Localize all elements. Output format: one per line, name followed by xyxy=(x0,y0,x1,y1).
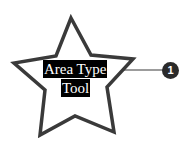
callout-number-badge: 1 xyxy=(162,62,179,79)
star-label-line-1: Area Type xyxy=(43,60,107,78)
star-label-line-2: Tool xyxy=(61,79,90,97)
